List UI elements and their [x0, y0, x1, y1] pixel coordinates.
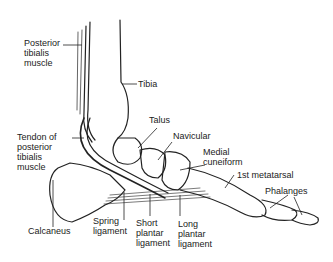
label-tendon-posterior-tibialis: Tendon of posterior tibialis muscle: [17, 132, 57, 172]
label-phalanges: Phalanges: [265, 186, 308, 196]
label-medial-cuneiform: Medial cuneiform: [203, 147, 243, 167]
label-talus: Talus: [149, 115, 170, 125]
foot-anatomy-diagram: Posterior tibialis muscle Tibia Talus Te…: [0, 0, 333, 262]
label-tibia: Tibia: [138, 79, 157, 89]
label-first-metatarsal: 1st metatarsal: [237, 170, 294, 180]
label-posterior-tibialis-muscle: Posterior tibialis muscle: [24, 38, 60, 68]
label-calcaneus: Calcaneus: [28, 226, 71, 236]
label-spring-ligament: Spring ligament: [93, 216, 127, 236]
label-long-plantar-ligament: Long plantar ligament: [178, 219, 212, 249]
label-short-plantar-ligament: Short plantar ligament: [136, 218, 170, 248]
label-navicular: Navicular: [173, 131, 211, 141]
